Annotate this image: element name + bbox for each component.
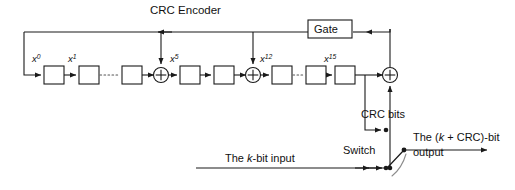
crc-encoder-diagram: CRC Encoder Gate [0, 0, 515, 190]
output-branch: The (k + CRC)-bit output [404, 131, 500, 158]
input-label: The k-bit input [225, 152, 295, 164]
crc-bits-wire [365, 75, 381, 130]
shift-register-chain: x0 x1 x5 [31, 53, 398, 85]
register-x0 [44, 66, 64, 84]
switch-travel-arc [392, 154, 406, 176]
crc-bits-label: CRC bits [361, 108, 406, 120]
register-x12 [272, 66, 292, 84]
output-switch[interactable]: Switch [343, 144, 406, 176]
register-label-x12: x12 [259, 53, 273, 65]
register-unlabeled-c [306, 66, 326, 84]
register-x5 [180, 66, 200, 84]
switch-label: Switch [343, 144, 375, 156]
register-x15 [335, 66, 355, 84]
output-label-line2: output [413, 146, 444, 158]
crc-contact-dot [384, 128, 389, 133]
register-label-x1: x1 [67, 53, 77, 65]
register-label-x5: x5 [169, 53, 179, 65]
crc-bits-branch: CRC bits [361, 75, 406, 132]
diagram-title: CRC Encoder [150, 4, 221, 16]
register-label-x0: x0 [31, 53, 41, 65]
gate-label: Gate [314, 23, 338, 35]
output-label-line1: The (k + CRC)-bit [413, 131, 500, 143]
gate-block: Gate [308, 20, 390, 67]
input-contact-dot [384, 166, 389, 171]
register-label-x15: x15 [323, 53, 337, 65]
register-x1 [79, 66, 99, 84]
gate-input-wire [366, 29, 390, 32]
register-unlabeled-a [122, 66, 142, 84]
crc-encoder-svg: CRC Encoder Gate [0, 0, 515, 190]
register-unlabeled-b [214, 66, 234, 84]
xor-adder-2 [246, 68, 261, 83]
xor-adder-1 [154, 68, 169, 83]
xor-adder-3 [383, 68, 398, 83]
